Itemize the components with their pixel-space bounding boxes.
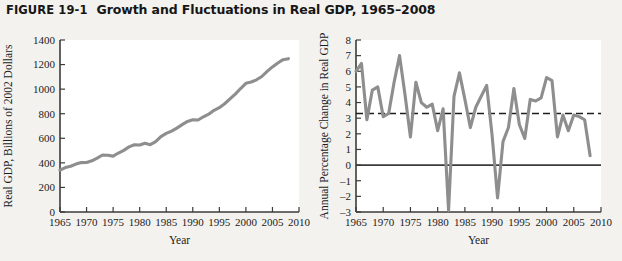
y-tick-label: 6: [346, 65, 352, 77]
y-tick-label: 800: [39, 108, 56, 120]
y-tick-label: 0: [346, 159, 352, 171]
y-tick-label: 1400: [33, 34, 56, 46]
chart-real-gdp-growth: –3–2–10123456781965197019751980198519901…: [318, 26, 622, 259]
x-axis-title: Year: [169, 234, 190, 246]
x-tick-label: 1975: [102, 216, 125, 228]
y-tick-label: 4: [346, 96, 352, 108]
y-tick-label: 2: [346, 128, 352, 140]
x-tick-label: 1985: [454, 216, 477, 228]
x-tick-label: 2005: [261, 216, 284, 228]
x-tick-label: 1990: [182, 216, 205, 228]
x-tick-label: 1980: [129, 216, 152, 228]
figure-header: FIGURE 19-1 Growth and Fluctuations in R…: [6, 2, 616, 22]
y-tick-label: 1000: [33, 83, 56, 95]
x-tick-label: 1965: [345, 216, 368, 228]
y-tick-label: 600: [39, 132, 56, 144]
y-tick-label: 1200: [33, 58, 56, 70]
y-axis-title: Real GDP, Billions of 2002 Dollars: [2, 44, 15, 207]
x-tick-label: 1995: [508, 216, 531, 228]
x-axis-title: Year: [468, 234, 489, 246]
x-tick-label: 1975: [399, 216, 422, 228]
y-tick-label: 8: [346, 34, 352, 46]
x-tick-label: 2005: [563, 216, 586, 228]
y-tick-label: 5: [346, 81, 352, 93]
x-tick-label: 2000: [235, 216, 258, 228]
y-axis-title: Annual Percentage Change in Real GDP: [318, 33, 331, 220]
figure-number: FIGURE 19-1: [6, 3, 88, 17]
y-tick-label: –2: [339, 190, 351, 202]
x-tick-label: 2000: [536, 216, 559, 228]
figure-title: Growth and Fluctuations in Real GDP, 196…: [97, 2, 436, 17]
real-gdp-growth-plot: –3–2–10123456781965197019751980198519901…: [318, 26, 622, 259]
x-tick-label: 1980: [427, 216, 450, 228]
y-tick-label: –1: [339, 175, 351, 187]
x-tick-label: 1970: [372, 216, 395, 228]
x-tick-label: 2010: [288, 216, 311, 228]
y-tick-label: 200: [39, 181, 56, 193]
y-tick-label: 3: [346, 112, 352, 124]
y-tick-label: 1: [346, 143, 352, 155]
x-tick-label: 2010: [590, 216, 613, 228]
real-gdp-level-plot: 0200400600800100012001400196519701975198…: [0, 26, 320, 259]
x-tick-label: 1995: [208, 216, 231, 228]
y-tick-label: 400: [39, 157, 56, 169]
chart-real-gdp-level: 0200400600800100012001400196519701975198…: [0, 26, 320, 259]
x-tick-label: 1990: [481, 216, 504, 228]
y-tick-label: 7: [346, 49, 352, 61]
x-tick-label: 1985: [155, 216, 178, 228]
x-tick-label: 1970: [76, 216, 99, 228]
plot-background: [356, 40, 601, 212]
x-tick-label: 1965: [49, 216, 72, 228]
